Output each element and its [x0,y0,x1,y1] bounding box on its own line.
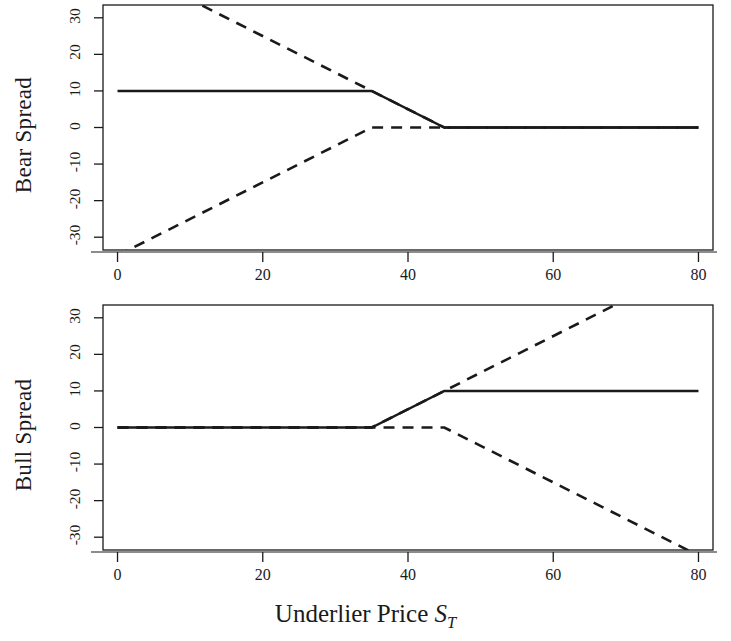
y-tick-label-text: 0 [66,422,84,430]
x-tick-label-bull-0: 0 [114,566,122,584]
y-tick-label-text: -20 [66,488,84,509]
series-line-bull-2 [118,428,699,556]
y-tick-label-bear-20: 20 [56,43,94,61]
y-tick-label-text: 20 [66,45,84,61]
series-group-bull [118,300,699,555]
y-tick-label-bull-20: 20 [56,343,94,361]
x-tick-label-bear-80: 80 [690,266,706,284]
y-tick-label-bull--10: -10 [56,453,94,471]
y-tick-label-text: 30 [66,308,84,324]
y-axis-title-bear-text: Bear Spread [11,77,37,193]
y-tick-label-bear--20: -20 [56,190,94,208]
x-tick-label-bear-20: 20 [255,266,271,284]
x-tick-label-bull-80: 80 [690,566,706,584]
series-line-bull-1 [118,300,699,428]
panel-bull-spread: Bull Spread -30-20-100102030020406080 [0,300,731,600]
y-axis-ticks-bull [94,318,103,537]
y-tick-label-text: -30 [66,225,84,246]
series-group-bear [118,0,699,255]
x-axis-title-symbol: ST [434,600,456,627]
y-tick-label-bear-0: 0 [56,117,94,135]
y-tick-label-bear-30: 30 [56,7,94,25]
y-axis-title-bull: Bull Spread [0,305,48,565]
y-tick-label-text: 10 [66,381,84,397]
y-axis-title-bull-text: Bull Spread [11,379,37,492]
x-tick-label-bull-20: 20 [255,566,271,584]
y-tick-label-bull-0: 0 [56,417,94,435]
x-tick-label-bull-40: 40 [400,566,416,584]
panel-bear-spread: Bear Spread -30-20-100102030020406080 [0,0,731,300]
y-tick-label-bear--30: -30 [56,226,94,244]
y-tick-label-text: -10 [66,152,84,173]
y-tick-label-text: -30 [66,525,84,546]
x-tick-label-bear-40: 40 [400,266,416,284]
x-axis-ticks-bear [91,252,717,262]
x-axis-title-text: Underlier Price [275,600,435,627]
y-tick-label-bull--20: -20 [56,490,94,508]
x-tick-label-bull-60: 60 [545,566,561,584]
y-tick-label-text: 0 [66,122,84,130]
x-tick-label-bear-0: 0 [114,266,122,284]
plot-area-bear [0,0,731,300]
y-axis-title-bear: Bear Spread [0,5,48,265]
series-line-bear-2 [118,128,699,256]
payoff-diagram-figure: Bear Spread -30-20-100102030020406080 Bu… [0,0,731,641]
plot-area-bull [0,300,731,600]
y-tick-label-bull-30: 30 [56,307,94,325]
x-axis-title-symbol-letter: S [434,600,447,627]
y-tick-label-text: 30 [66,8,84,24]
y-tick-label-text: 20 [66,345,84,361]
y-tick-label-text: -10 [66,452,84,473]
x-axis-title: Underlier Price ST [0,600,731,633]
x-tick-label-bear-60: 60 [545,266,561,284]
y-tick-label-bull--30: -30 [56,526,94,544]
y-tick-label-bull-10: 10 [56,380,94,398]
y-tick-label-text: -20 [66,188,84,209]
y-axis-ticks-bear [94,18,103,237]
y-tick-label-text: 10 [66,81,84,97]
y-tick-label-bear--10: -10 [56,153,94,171]
series-line-bear-1 [118,0,699,128]
x-axis-ticks-bull [91,552,717,562]
y-tick-label-bear-10: 10 [56,80,94,98]
x-axis-title-subscript: T [447,613,456,632]
